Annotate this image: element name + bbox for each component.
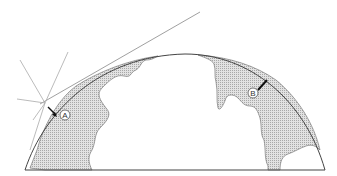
label-b: B [250, 89, 255, 98]
earth-curvature-diagram: A B [0, 0, 337, 176]
label-a: A [62, 111, 68, 120]
tangent-ray-line [40, 12, 200, 104]
landmass-right [198, 55, 320, 170]
